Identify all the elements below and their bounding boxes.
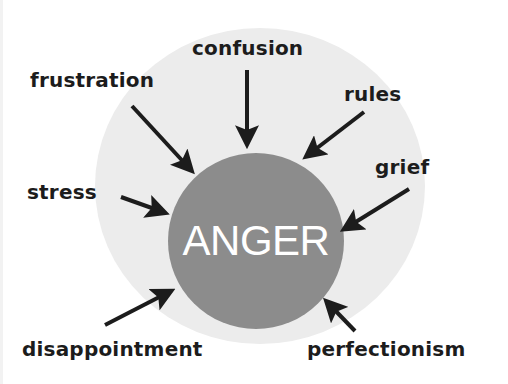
cause-label-perfectionism: perfectionism (307, 339, 465, 359)
cause-label-stress: stress (27, 182, 97, 202)
cause-label-frustration: frustration (30, 70, 154, 90)
cause-label-disappointment: disappointment (22, 339, 203, 359)
cause-label-grief: grief (375, 157, 429, 177)
cause-label-confusion: confusion (192, 38, 303, 58)
cause-label-rules: rules (344, 84, 401, 104)
center-label-anger: ANGER (183, 220, 330, 262)
